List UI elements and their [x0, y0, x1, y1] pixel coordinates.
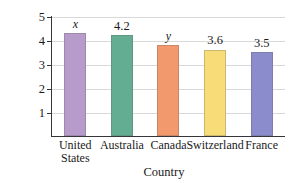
plot-area: 12345 x4.2y3.63.5 [51, 16, 285, 137]
bar-value-label: y [166, 30, 171, 42]
bar[interactable] [157, 45, 179, 136]
bar-slot: 3.6 [192, 16, 239, 136]
bar-slot: 3.5 [238, 16, 285, 136]
bar[interactable] [251, 52, 273, 136]
bar-slot: y [145, 16, 192, 136]
y-tick-mark [47, 41, 51, 42]
bar-series: x4.2y3.63.5 [52, 16, 285, 136]
bar-value-label: x [73, 18, 78, 30]
y-tick-mark [47, 113, 51, 114]
x-axis-title: Country [0, 165, 294, 180]
bar-chart: Waste per Person per Day (pounds) 12345 … [0, 0, 294, 183]
y-tick-label: 3 [39, 59, 45, 72]
bar[interactable] [111, 35, 133, 136]
bar-value-label: 3.5 [254, 37, 270, 50]
y-tick-label: 4 [39, 35, 45, 48]
x-category-label: France [232, 139, 291, 152]
x-axis-line [51, 136, 285, 137]
x-axis-category-labels: United StatesAustraliaCanadaSwitzerlandF… [52, 139, 285, 165]
y-tick-label: 1 [39, 107, 45, 120]
bar-slot: x [52, 16, 99, 136]
bar[interactable] [64, 33, 86, 136]
bar-slot: 4.2 [99, 16, 146, 136]
y-tick-label: 2 [39, 83, 45, 96]
y-tick-label: 5 [39, 11, 45, 24]
bar-value-label: 4.2 [114, 20, 130, 33]
y-tick-mark [47, 65, 51, 66]
bar[interactable] [204, 50, 226, 136]
bar-value-label: 3.6 [207, 34, 223, 47]
y-tick-mark [47, 89, 51, 90]
y-tick-mark [47, 17, 51, 18]
